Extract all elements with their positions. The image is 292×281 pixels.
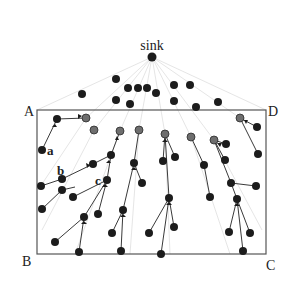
sink-label: sink — [140, 38, 163, 53]
corner-b-label: B — [22, 254, 31, 269]
corner-d-label: D — [268, 104, 278, 119]
node-c-label: c — [95, 173, 101, 188]
wsn-diagram: sink A D B C a b c — [0, 0, 292, 281]
sink-rays — [37, 57, 266, 254]
corner-c-label: C — [266, 258, 275, 273]
corner-a-label: A — [24, 104, 35, 119]
sensor-nodes — [37, 115, 262, 258]
arrowheads — [52, 114, 248, 224]
node-a-label: a — [47, 143, 54, 158]
node-b-label: b — [57, 163, 64, 178]
sink-node — [148, 53, 157, 62]
relay-nodes — [82, 114, 244, 144]
